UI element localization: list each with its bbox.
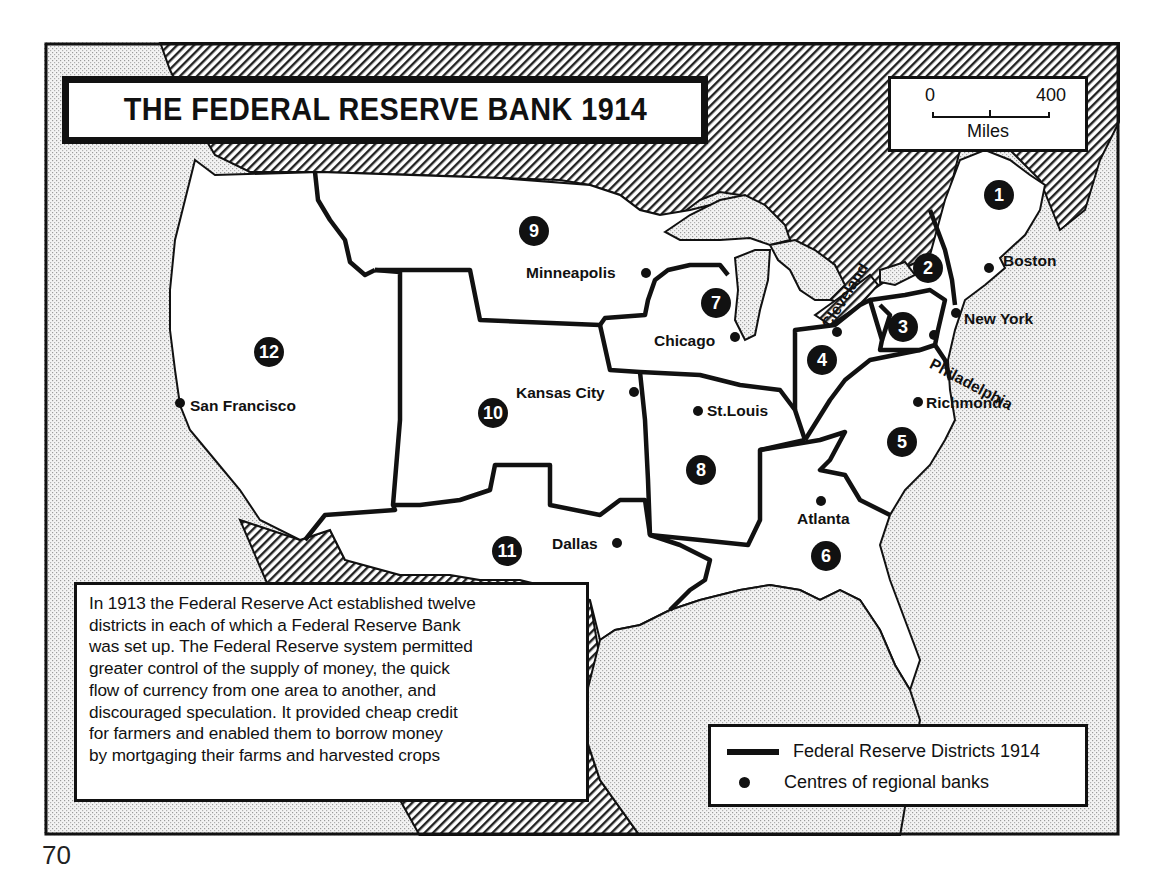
district-number-4: 4 [807, 345, 837, 375]
city-label-st-louis: St.Louis [707, 402, 768, 420]
scale-end-label: 400 [1036, 85, 1066, 106]
district-number-10: 10 [478, 398, 508, 428]
description-line: districts in each of which a Federal Res… [89, 615, 576, 637]
district-number-6: 6 [811, 541, 841, 571]
legend-label-districts: Federal Reserve Districts 1914 [793, 741, 1040, 762]
district-number-3: 3 [888, 312, 918, 342]
city-label-richmond: Richmond [926, 394, 1002, 412]
district-number-8: 8 [686, 455, 716, 485]
legend-label-centres: Centres of regional banks [784, 772, 989, 793]
map-title: THE FEDERAL RESERVE BANK 1914 [123, 92, 646, 128]
city-dot-st-louis [693, 406, 703, 416]
legend-item-districts: Federal Reserve Districts 1914 [727, 741, 1040, 762]
city-label-san-francisco: San Francisco [190, 397, 296, 415]
city-dot-richmond [913, 397, 923, 407]
scale-bar-box: 0 400 Miles [888, 76, 1088, 152]
scale-unit-label: Miles [967, 121, 1009, 142]
description-line: was set up. The Federal Reserve system p… [89, 636, 576, 658]
city-label-dallas: Dallas [552, 535, 598, 553]
scale-bar [932, 112, 1050, 118]
city-dot-san-francisco [175, 398, 185, 408]
description-line: In 1913 the Federal Reserve Act establis… [89, 593, 576, 615]
city-dot-kansas-city [629, 387, 639, 397]
city-dot-minneapolis [641, 268, 651, 278]
description-line: for farmers and enabled them to borrow m… [89, 723, 576, 745]
city-label-atlanta: Atlanta [797, 510, 850, 528]
description-box: In 1913 the Federal Reserve Act establis… [74, 582, 589, 802]
city-label-boston: Boston [1003, 252, 1056, 270]
description-line: discouraged speculation. It provided che… [89, 702, 576, 724]
description-line: greater control of the supply of money, … [89, 658, 576, 680]
legend-item-centres: Centres of regional banks [711, 772, 989, 793]
page-number: 70 [42, 840, 71, 870]
map-title-box: THE FEDERAL RESERVE BANK 1914 [62, 76, 708, 144]
city-dot-dallas [612, 538, 622, 548]
district-number-5: 5 [887, 427, 917, 457]
legend-box: Federal Reserve Districts 1914 Centres o… [708, 724, 1088, 807]
city-dot-philadelphia [929, 330, 939, 340]
district-number-12: 12 [254, 337, 284, 367]
description-line: by mortgaging their farms and harvested … [89, 745, 576, 767]
scale-mid-tick [989, 110, 991, 117]
district-number-2: 2 [913, 253, 943, 283]
scale-start-label: 0 [925, 85, 935, 106]
city-label-minneapolis: Minneapolis [526, 264, 616, 282]
city-dot-new-york [951, 308, 961, 318]
district-number-7: 7 [701, 288, 731, 318]
city-label-kansas-city: Kansas City [516, 384, 605, 402]
description-line: flow of currency from one area to anothe… [89, 680, 576, 702]
district-number-1: 1 [984, 180, 1014, 210]
district-number-9: 9 [519, 216, 549, 246]
bank-centre-dot-icon [739, 777, 750, 788]
city-dot-boston [984, 263, 994, 273]
district-line-icon [727, 749, 779, 755]
city-dot-chicago [730, 332, 740, 342]
city-label-chicago: Chicago [654, 332, 715, 350]
district-number-11: 11 [492, 536, 522, 566]
city-dot-atlanta [816, 496, 826, 506]
city-label-new-york: New York [964, 310, 1033, 328]
